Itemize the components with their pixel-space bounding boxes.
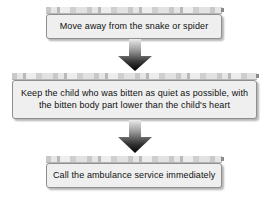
flow-step-2-box[interactable]: Keep the child who was bitten as quiet a… xyxy=(12,80,257,119)
flow-step-1-box[interactable]: Move away from the snake or spider xyxy=(46,14,222,39)
down-arrow-icon-2 xyxy=(118,120,152,153)
scan-artifact-strip-3 xyxy=(46,156,222,163)
flow-step-2-line-2: the bitten body part lower than the chil… xyxy=(19,99,250,111)
flow-step-3-line-1: Call the ambulance service immediately xyxy=(53,169,215,181)
flow-step-3: Call the ambulance service immediately xyxy=(46,156,222,188)
scan-artifact-strip-1 xyxy=(46,7,222,14)
down-arrow-icon-1 xyxy=(118,39,152,71)
flow-step-2-line-1: Keep the child who was bitten as quiet a… xyxy=(19,87,250,99)
flow-step-1: Move away from the snake or spider xyxy=(46,7,222,39)
flow-step-1-line-1: Move away from the snake or spider xyxy=(53,20,215,32)
scan-artifact-strip-2 xyxy=(12,73,257,80)
flow-step-3-box[interactable]: Call the ambulance service immediately xyxy=(46,163,222,188)
flow-step-2: Keep the child who was bitten as quiet a… xyxy=(12,73,257,119)
flowchart-diagram: Move away from the snake or spider Keep … xyxy=(0,0,269,201)
